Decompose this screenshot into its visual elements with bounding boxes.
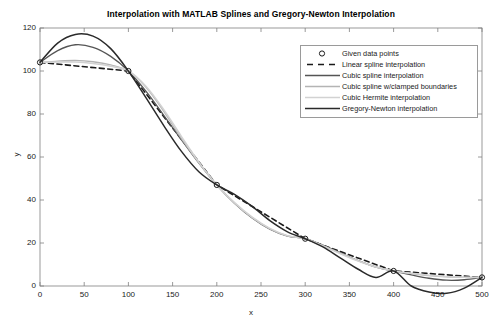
line-solid-lightgray-icon xyxy=(304,81,340,92)
marker-circle-icon xyxy=(304,48,340,59)
legend-label: Cubic spline interpolation xyxy=(340,71,424,80)
legend-item: Linear spline interpolation xyxy=(301,59,477,70)
legend-label: Cubic Hermite interpolation xyxy=(340,93,430,102)
chart-legend: Given data pointsLinear spline interpola… xyxy=(300,45,478,118)
line-solid-gray-icon xyxy=(304,70,340,81)
legend-label: Gregory-Newton interpolation xyxy=(340,104,437,113)
legend-item: Given data points xyxy=(301,48,477,59)
legend-label: Cubic spline w/clamped boundaries xyxy=(340,82,457,91)
x-tick-label: 500 xyxy=(462,290,502,299)
x-axis-label: x xyxy=(0,308,502,317)
figure-canvas: Interpolation with MATLAB Splines and Gr… xyxy=(0,0,502,327)
line-dashed-dark-icon xyxy=(304,59,340,70)
x-tick-label: 250 xyxy=(241,290,281,299)
line-solid-dark-icon xyxy=(304,103,340,114)
x-tick-label: 50 xyxy=(64,290,104,299)
y-tick-label: 0 xyxy=(6,281,36,290)
x-tick-label: 200 xyxy=(197,290,237,299)
y-tick-label: 40 xyxy=(6,195,36,204)
legend-item: Cubic spline w/clamped boundaries xyxy=(301,81,477,92)
x-tick-label: 150 xyxy=(153,290,193,299)
x-tick-label: 350 xyxy=(329,290,369,299)
x-tick-label: 0 xyxy=(20,290,60,299)
line-solid-lightergray-icon xyxy=(304,92,340,103)
legend-item: Gregory-Newton interpolation xyxy=(301,103,477,114)
legend-label: Given data points xyxy=(340,49,399,58)
x-tick-label: 450 xyxy=(418,290,458,299)
x-tick-label: 100 xyxy=(108,290,148,299)
x-tick-label: 300 xyxy=(285,290,325,299)
legend-item: Cubic Hermite interpolation xyxy=(301,92,477,103)
y-tick-label: 60 xyxy=(6,152,36,161)
y-axis-label: y xyxy=(12,135,21,175)
y-tick-label: 80 xyxy=(6,109,36,118)
legend-label: Linear spline interpolation xyxy=(340,60,425,69)
y-tick-label: 120 xyxy=(6,23,36,32)
y-tick-label: 100 xyxy=(6,66,36,75)
y-tick-label: 20 xyxy=(6,238,36,247)
legend-item: Cubic spline interpolation xyxy=(301,70,477,81)
x-tick-label: 400 xyxy=(374,290,414,299)
